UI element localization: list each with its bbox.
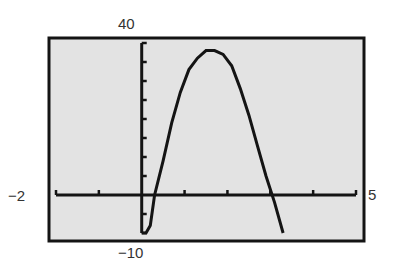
graph-screen: [0, 0, 393, 262]
plot-area: [49, 38, 364, 241]
